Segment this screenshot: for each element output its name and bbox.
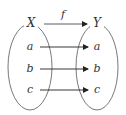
codomain-element-b: b — [93, 62, 100, 75]
domain-element-b: b — [26, 62, 33, 75]
codomain-element-c: c — [94, 83, 100, 96]
codomain-label: Y — [93, 16, 102, 30]
domain-element-c: c — [27, 83, 33, 96]
domain-element-a: a — [27, 40, 34, 53]
function-diagram: f X Y a b c a b c — [0, 0, 126, 115]
codomain-element-a: a — [94, 40, 101, 53]
domain-label: X — [26, 16, 36, 30]
function-label: f — [60, 8, 67, 21]
